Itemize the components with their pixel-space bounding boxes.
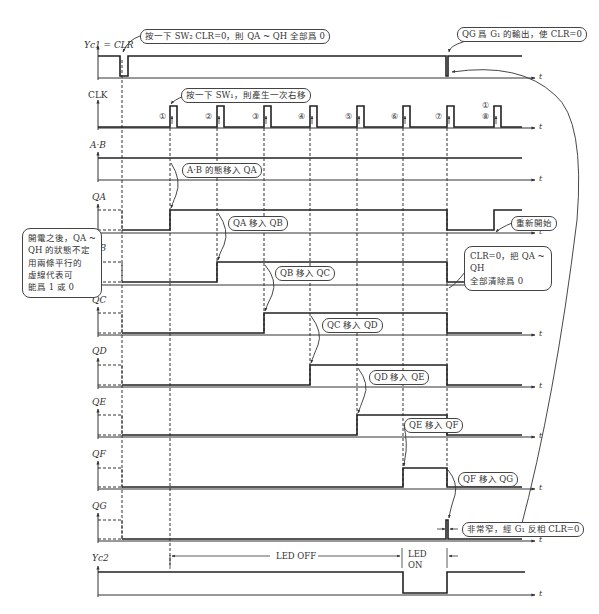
yc2-label: Yc2 bbox=[92, 554, 109, 563]
qd-label: QD bbox=[92, 347, 107, 356]
qg-label: QG bbox=[92, 502, 107, 511]
narrow-pulse-note: 非常窄，經 G₁ 反相 CLR=0 bbox=[462, 522, 584, 537]
clock-number: ③ bbox=[252, 113, 259, 121]
clr-waveform bbox=[98, 56, 522, 76]
t-label: t bbox=[539, 484, 542, 492]
clock-number: ⑧ bbox=[482, 113, 489, 121]
power-on-line: 能爲 1 或 0 bbox=[28, 281, 96, 293]
time-axes bbox=[98, 78, 535, 595]
t-label: t bbox=[539, 175, 542, 183]
qe-label: QE bbox=[92, 398, 106, 407]
clock-number: ⑦ bbox=[435, 113, 442, 121]
clock-number: ① bbox=[159, 113, 166, 121]
clock-number: ⑤ bbox=[345, 113, 352, 121]
power-on-line: 開電之後，QA ~ bbox=[28, 232, 96, 244]
led-off-label: LED OFF bbox=[274, 551, 318, 562]
t-label: t bbox=[539, 123, 542, 131]
clk-label: CLK bbox=[88, 91, 108, 100]
power-on-note: 開電之後，QA ~ QH 的狀態不定 用兩條平行的 虛線代表可 能爲 1 或 0 bbox=[22, 228, 102, 298]
qf-shift-note: QF 移入 QG bbox=[458, 472, 518, 487]
clock-number-restart: ① bbox=[482, 102, 489, 110]
clear-all-line: CLR=0，把 QA ~ QH bbox=[470, 250, 546, 275]
yc2-waveform bbox=[98, 572, 525, 593]
qd-waveform bbox=[122, 365, 522, 385]
qg-output-note: QG 爲 G₁ 的輸出，使 CLR=0 bbox=[457, 27, 587, 42]
power-on-line: 虛線代表可 bbox=[28, 269, 96, 281]
power-on-line: 用兩條平行的 bbox=[28, 257, 96, 269]
qf-label: QF bbox=[92, 450, 106, 459]
clk-press-note: 按一下 SW₁，則產生一次右移 bbox=[181, 88, 311, 103]
ab-shift-note: A·B 的態移入 QA bbox=[182, 163, 262, 178]
qa-shift-note: QA 移入 QB bbox=[228, 216, 288, 231]
t-label: t bbox=[539, 536, 542, 544]
t-label: t bbox=[539, 73, 542, 81]
qd-shift-note: QD 移入 QE bbox=[369, 370, 429, 385]
led-on-label: LED ON bbox=[408, 549, 427, 571]
clear-all-note: CLR=0，把 QA ~ QH 全部清除爲 0 bbox=[464, 246, 552, 291]
t-label: t bbox=[539, 432, 542, 440]
qe-shift-note: QE 移入 QF bbox=[404, 418, 463, 433]
power-on-line: QH 的狀態不定 bbox=[28, 244, 96, 256]
qb-shift-note: QB 移入 QC bbox=[275, 266, 335, 281]
clr-label: Yc1 = CLR bbox=[84, 41, 134, 50]
t-label: t bbox=[539, 382, 542, 390]
clock-number: ⑥ bbox=[391, 113, 398, 121]
restart-note: 重新開始 bbox=[511, 216, 557, 231]
ab-label: A·B bbox=[90, 141, 106, 150]
led-on-line: LED bbox=[408, 549, 427, 560]
clear-all-line: 全部清除爲 0 bbox=[470, 275, 546, 287]
led-on-line: ON bbox=[408, 560, 427, 571]
clock-number: ② bbox=[205, 113, 212, 121]
t-label: t bbox=[539, 590, 542, 598]
clock-number: ④ bbox=[298, 113, 305, 121]
clr-press-note: 按一下 SW₂ CLR=0，則 QA ~ QH 全部爲 0 bbox=[140, 29, 330, 44]
qa-waveform bbox=[122, 210, 522, 230]
qa-label: QA bbox=[92, 193, 106, 202]
qc-shift-note: QC 移入 QD bbox=[322, 318, 383, 333]
t-label: t bbox=[539, 330, 542, 338]
